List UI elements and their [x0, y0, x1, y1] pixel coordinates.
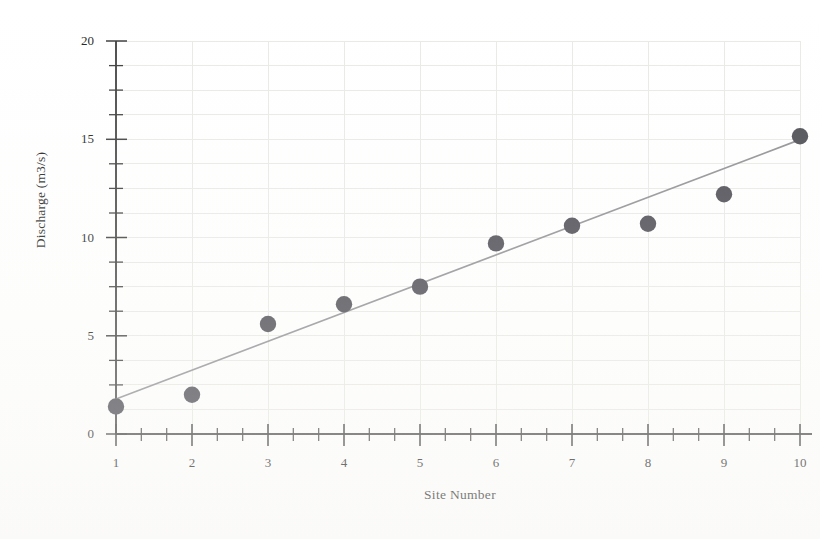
x-tick-label: 2 — [172, 455, 212, 471]
x-tick-label: 9 — [704, 455, 744, 471]
discharge-vs-site-scatter-chart: 20 15 10 5 0 1 2 3 4 5 6 7 8 9 10 Discha… — [0, 0, 820, 539]
x-tick-label: 4 — [324, 455, 364, 471]
data-point-markers — [108, 128, 808, 415]
data-point — [640, 216, 656, 232]
x-tick-label: 7 — [552, 455, 592, 471]
grid-lines — [116, 41, 800, 434]
x-tick-label: 3 — [248, 455, 288, 471]
data-point — [488, 235, 504, 251]
data-point — [564, 218, 580, 234]
x-tick-label: 10 — [780, 455, 820, 471]
y-tick-label: 20 — [52, 33, 94, 49]
data-point — [108, 398, 124, 414]
x-axis-major-ticks — [116, 424, 800, 446]
x-tick-label: 6 — [476, 455, 516, 471]
x-tick-label: 1 — [96, 455, 136, 471]
data-point — [260, 316, 276, 332]
x-tick-label: 5 — [400, 455, 440, 471]
y-axis-title: Discharge (m3/s) — [26, 0, 56, 410]
data-point — [336, 296, 352, 312]
y-tick-label: 0 — [52, 426, 94, 442]
y-tick-label: 5 — [52, 328, 94, 344]
data-point — [412, 278, 428, 294]
x-axis-title: Site Number — [110, 487, 810, 503]
x-tick-label: 8 — [628, 455, 668, 471]
data-point — [792, 128, 808, 144]
y-tick-label: 15 — [52, 131, 94, 147]
y-tick-label: 10 — [52, 230, 94, 246]
data-point — [716, 186, 732, 202]
data-point — [184, 387, 200, 403]
